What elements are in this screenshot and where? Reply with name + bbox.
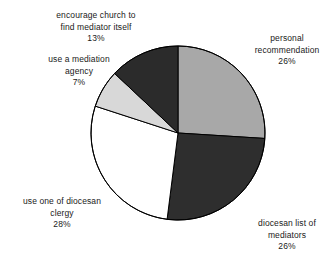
slice-label-line: recommendation [240, 45, 334, 57]
slice-label-line: mediators [240, 230, 334, 242]
pie-slice-diocesan-list-of-mediators [167, 133, 265, 220]
slice-label-encourage-church-to-find-mediator-itself: encourage church to find mediator itself… [34, 10, 158, 45]
slice-label-line: diocesan list of [240, 218, 334, 230]
slice-label-value: 7% [22, 77, 136, 89]
slice-label-value: 26% [240, 56, 334, 68]
pie-chart-figure: encourage church to find mediator itself… [0, 0, 335, 271]
slice-label-line: clergy [4, 208, 120, 220]
slice-label-line: use one of diocesan [4, 196, 120, 208]
slice-label-value: 28% [4, 219, 120, 231]
slice-label-line: use a mediation [22, 54, 136, 66]
slice-label-line: agency [22, 66, 136, 78]
slice-label-line: find mediator itself [34, 22, 158, 34]
slice-label-personal-recommendation: personal recommendation 26% [240, 33, 334, 68]
slice-label-value: 26% [240, 241, 334, 253]
slice-label-line: personal [240, 33, 334, 45]
slice-label-value: 13% [34, 33, 158, 45]
slice-label-line: encourage church to [34, 10, 158, 22]
slice-label-diocesan-list-of-mediators: diocesan list of mediators 26% [240, 218, 334, 253]
slice-label-use-a-mediation-agency: use a mediation agency 7% [22, 54, 136, 89]
slice-label-use-one-of-diocesan-clergy: use one of diocesan clergy 28% [4, 196, 120, 231]
